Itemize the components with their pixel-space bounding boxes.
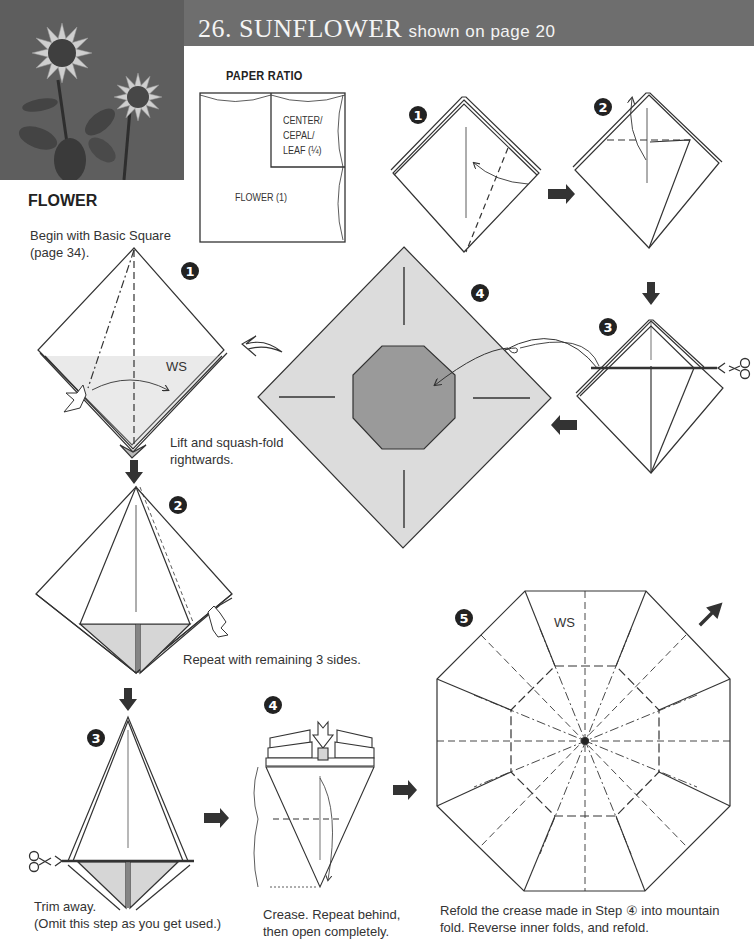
step-badge-flower-4: 4 <box>264 696 282 714</box>
paper-ratio-small-square-label: CENTER/ CEPAL/ LEAF (¼) <box>283 113 323 158</box>
arrow-right-icon <box>548 184 575 204</box>
step5-caption-line-2: fold. Reverse inner folds, and refold. <box>440 919 719 936</box>
step5-caption: Refold the crease made in Step ④ into mo… <box>440 902 719 936</box>
ws-label-step5: WS <box>554 614 575 631</box>
scissors-icon <box>30 852 63 872</box>
step-badge-flower-5: 5 <box>455 609 473 627</box>
arrow-down-icon <box>125 460 143 484</box>
small-square-line-1: CENTER/ <box>283 113 323 128</box>
small-square-line-3: LEAF (¼) <box>283 143 323 158</box>
center-step-4-diagram <box>258 247 598 548</box>
paper-ratio-big-square-label: FLOWER (1) <box>235 190 287 205</box>
step-badge-center-3: 3 <box>599 318 617 336</box>
push-arrow-icon <box>242 336 282 356</box>
paper-ratio-label: PAPER RATIO <box>226 68 303 83</box>
step1-caption-line-1: Lift and squash-fold <box>170 434 283 451</box>
step4-caption: Crease. Repeat behind, then open complet… <box>263 906 400 940</box>
step-badge-flower-1: 1 <box>181 262 199 280</box>
step1-caption: Lift and squash-fold rightwards. <box>170 434 283 468</box>
svg-text:1: 1 <box>185 264 194 279</box>
paper-ratio-diagram <box>200 93 345 242</box>
diagram-canvas: 1 2 3 4 1 2 3 4 5 <box>0 0 754 944</box>
svg-text:5: 5 <box>459 611 468 626</box>
center-step-3-diagram <box>520 320 723 473</box>
step2-caption: Repeat with remaining 3 sides. <box>183 651 361 668</box>
intro-line-1: Begin with Basic Square <box>30 227 171 244</box>
svg-text:4: 4 <box>475 286 484 301</box>
center-step-2-diagram <box>573 93 722 248</box>
ws-label-step1: WS <box>166 358 187 375</box>
step-badge-center-2: 2 <box>594 98 612 116</box>
step4-caption-line-2: then open completely. <box>263 923 400 940</box>
step-badge-center-1: 1 <box>409 106 427 124</box>
flower-step-4-diagram <box>254 722 374 887</box>
step3-caption: Trim away. (Omit this step as you get us… <box>34 898 221 932</box>
flower-step-3-diagram <box>62 717 194 910</box>
step3-caption-line-1: Trim away. <box>34 898 221 915</box>
intro-note: Begin with Basic Square (page 34). <box>30 227 171 261</box>
flower-step-2-diagram <box>36 487 232 673</box>
intro-line-2: (page 34). <box>30 244 171 261</box>
arrow-diagonal-icon <box>700 604 721 625</box>
step-badge-center-4: 4 <box>471 284 489 302</box>
flower-step-5-diagram <box>437 591 730 891</box>
arrow-down-icon <box>119 688 137 711</box>
flower-step-1-diagram <box>38 248 227 458</box>
small-square-line-2: CEPAL/ <box>283 128 323 143</box>
arrow-right-icon <box>393 780 417 800</box>
arrow-left-icon <box>551 415 577 435</box>
step-badge-flower-2: 2 <box>169 496 187 514</box>
step5-caption-line-1: Refold the crease made in Step ④ into mo… <box>440 902 719 919</box>
step-badge-flower-3: 3 <box>87 729 105 747</box>
step3-caption-line-2: (Omit this step as you get used.) <box>34 915 221 932</box>
svg-text:3: 3 <box>91 731 100 746</box>
svg-text:1: 1 <box>413 108 422 123</box>
section-title-flower: FLOWER <box>28 192 97 210</box>
svg-text:4: 4 <box>268 698 277 713</box>
arrow-down-icon <box>642 282 660 305</box>
step4-caption-line-1: Crease. Repeat behind, <box>263 906 400 923</box>
step1-caption-line-2: rightwards. <box>170 451 283 468</box>
svg-text:2: 2 <box>598 100 607 115</box>
svg-text:2: 2 <box>173 498 182 513</box>
arrow-right-icon <box>204 808 229 828</box>
svg-text:3: 3 <box>603 320 612 335</box>
scissors-icon <box>718 359 750 379</box>
